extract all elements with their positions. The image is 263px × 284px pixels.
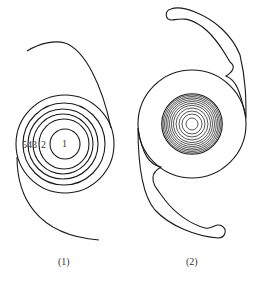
ring-label-3: 3 <box>32 140 37 150</box>
ring-label-2: 2 <box>41 140 46 150</box>
ring-label-1: 1 <box>62 139 67 149</box>
diagram-canvas <box>0 0 263 284</box>
figure-2-caption: (2) <box>186 257 198 267</box>
figure-2-top-haptic <box>166 8 246 118</box>
figure-1-caption: (1) <box>58 257 70 267</box>
figure-2-optic <box>138 70 246 178</box>
figure-2-diffractive-rings <box>162 94 223 155</box>
